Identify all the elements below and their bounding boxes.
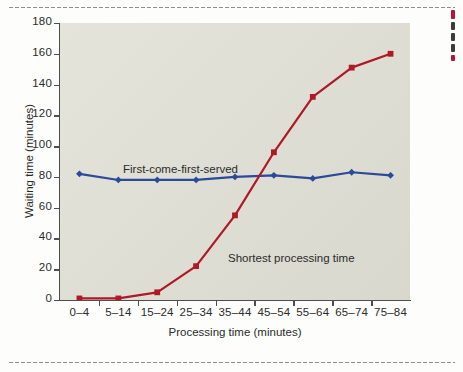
- y-axis-title: Waiting time (minutes): [23, 71, 35, 251]
- data-point-2: [154, 289, 160, 295]
- y-tick-mark-0: [54, 300, 60, 301]
- data-point-5: [270, 172, 277, 179]
- sliver-line-4: [451, 44, 455, 52]
- y-tick-mark-20: [54, 269, 60, 270]
- top-dotted-rule: [8, 6, 455, 9]
- data-point-6: [309, 175, 316, 182]
- sliver-line-2: [451, 22, 455, 30]
- y-tick-label-20: 20: [8, 261, 52, 273]
- y-axis-line: [59, 23, 60, 301]
- bottom-dotted-rule: [8, 361, 455, 364]
- sliver-line-1: [451, 10, 455, 19]
- y-tick-mark-140: [54, 85, 60, 86]
- sliver-line-5: [451, 55, 455, 61]
- data-point-8: [388, 51, 394, 57]
- y-tick-mark-80: [54, 177, 60, 178]
- x-axis-line: [59, 300, 411, 301]
- data-point-4: [232, 212, 238, 218]
- data-point-2: [154, 177, 161, 184]
- y-tick-mark-40: [54, 238, 60, 239]
- data-point-0: [76, 170, 83, 177]
- y-tick-label-160: 160: [8, 46, 52, 58]
- y-tick-label-180: 180: [8, 15, 52, 27]
- data-point-1: [115, 177, 122, 184]
- x-axis-title: Processing time (minutes): [60, 326, 410, 338]
- y-tick-mark-180: [54, 23, 60, 24]
- sliver-line-3: [451, 33, 455, 41]
- data-point-3: [193, 263, 199, 269]
- data-point-7: [349, 65, 355, 71]
- y-tick-label-0: 0: [8, 292, 52, 304]
- data-point-8: [387, 172, 394, 179]
- data-point-7: [348, 169, 355, 176]
- x-tick-label-8: 75–84: [361, 306, 421, 318]
- data-point-6: [310, 94, 316, 100]
- data-point-5: [271, 149, 277, 155]
- figure-container: 020406080100120140160180 0–45–1415–2425–…: [0, 0, 463, 372]
- y-tick-mark-60: [54, 208, 60, 209]
- y-tick-mark-120: [54, 115, 60, 116]
- adjacent-page-sliver: [449, 10, 463, 62]
- data-point-3: [193, 177, 200, 184]
- y-tick-mark-100: [54, 146, 60, 147]
- series-label-shortest-processing-time: Shortest processing time: [228, 252, 355, 264]
- series-label-first-come-first-served: First-come-first-served: [123, 163, 238, 175]
- y-tick-mark-160: [54, 54, 60, 55]
